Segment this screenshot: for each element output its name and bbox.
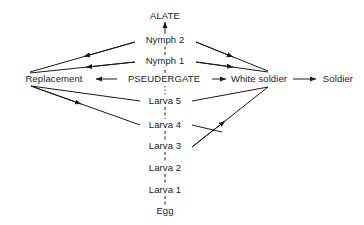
edge-larva3-white-soldier-arrow bbox=[192, 121, 225, 147]
node-alate: ALATE bbox=[148, 11, 182, 21]
node-replacement: Replacement bbox=[23, 74, 84, 84]
edge-larva4-replacement-arrow bbox=[31, 86, 81, 104]
node-larva-1: Larva 1 bbox=[147, 185, 183, 195]
node-larva-5: Larva 5 bbox=[147, 96, 183, 106]
edge-nymph2-white-soldier-arrow bbox=[196, 42, 233, 57]
edge-larva5-replacement bbox=[31, 86, 140, 101]
edge-nymph2-replacement-arrow bbox=[84, 42, 135, 57]
node-larva-4: Larva 4 bbox=[147, 120, 183, 130]
node-pseudergate: PSEUDERGATE bbox=[126, 74, 202, 84]
edge-larva5-white-soldier bbox=[192, 87, 268, 101]
caste-development-diagram: ALATE Nymph 2 Nymph 1 Replacement PSEUDE… bbox=[0, 0, 364, 225]
edge-larva4-white-soldier-stub bbox=[192, 125, 222, 132]
edge-nymph1-white-soldier-arrow bbox=[196, 62, 233, 67]
edge-nymph1-replacement-arrow bbox=[86, 62, 135, 67]
node-white-soldier: White soldier bbox=[229, 74, 289, 84]
node-larva-2: Larva 2 bbox=[147, 163, 183, 173]
node-larva-3: Larva 3 bbox=[147, 141, 183, 151]
node-soldier: Soldier bbox=[321, 74, 355, 84]
node-nymph-1: Nymph 1 bbox=[144, 56, 187, 66]
node-nymph-2: Nymph 2 bbox=[144, 35, 187, 45]
node-egg: Egg bbox=[154, 206, 175, 216]
